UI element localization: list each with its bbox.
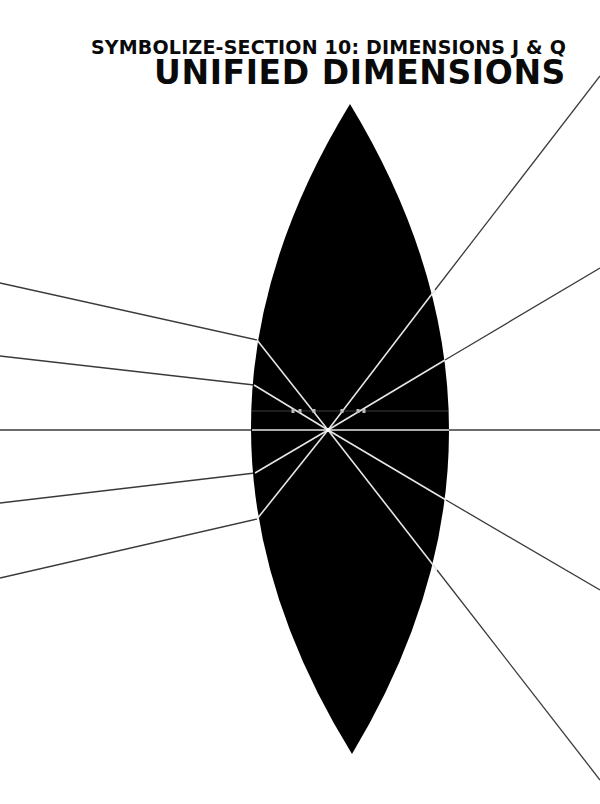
incoming-ray: [0, 519, 257, 578]
outgoing-rays: [435, 76, 600, 780]
outgoing-ray: [435, 76, 600, 290]
lens-ray-diagram: [0, 0, 600, 804]
tick-mark: [341, 409, 344, 413]
incoming-ray: [0, 356, 254, 385]
tick-mark: [292, 409, 295, 413]
incoming-rays: [0, 283, 257, 578]
tick-mark: [357, 409, 360, 413]
focal-point: [326, 428, 330, 432]
tick-mark: [363, 409, 366, 413]
incoming-ray: [0, 473, 255, 503]
outgoing-ray: [446, 500, 600, 590]
outgoing-ray: [445, 268, 600, 360]
tick-mark: [313, 409, 316, 413]
incoming-ray: [0, 283, 257, 340]
convex-lens-shape: [251, 104, 449, 754]
tick-mark: [299, 409, 302, 413]
outgoing-ray: [437, 570, 600, 780]
